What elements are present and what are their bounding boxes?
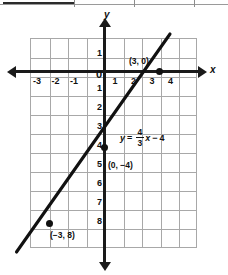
x-axis-label: x (210, 64, 216, 75)
equation-lhs: y (120, 133, 125, 143)
gridline-horizontal (31, 96, 196, 97)
coordinate-plane: x y -3 -2 -1 1 2 3 4 0 1 1 2 3 4 5 6 7 8… (0, 0, 228, 275)
origin-label: 0 (90, 68, 102, 80)
gridline-horizontal (31, 210, 196, 211)
gridline-horizontal (31, 153, 196, 154)
x-tick-label: 1 (107, 76, 123, 86)
data-point-label-3-0: (3, 0) (129, 56, 149, 66)
x-tick-label: -1 (66, 76, 82, 86)
equation-minus: − (152, 133, 157, 143)
y-tick-label: 8 (90, 216, 102, 226)
gridline-horizontal (31, 134, 196, 135)
equation-equals: = (127, 133, 132, 143)
x-tick-label: -3 (29, 76, 45, 86)
y-tick-label: 7 (90, 197, 102, 207)
y-axis-label: y (104, 9, 110, 20)
x-tick-label: -2 (48, 76, 64, 86)
x-axis-arrow-right-icon (198, 66, 207, 78)
gridline-horizontal (31, 115, 196, 116)
data-point-0-neg4 (101, 144, 108, 151)
y-tick-label: 1 (90, 83, 102, 93)
gridline-horizontal (31, 172, 196, 173)
figure-canvas: x y -3 -2 -1 1 2 3 4 0 1 1 2 3 4 5 6 7 8… (0, 0, 228, 275)
y-tick-label: 6 (90, 178, 102, 188)
equation-fraction: 4 3 (136, 128, 144, 147)
x-tick-label: 4 (163, 76, 179, 86)
y-axis-arrow-down-icon (99, 262, 111, 271)
gridline-horizontal (31, 58, 196, 59)
equation-variable: x (145, 133, 150, 143)
data-point-label-0-neg4: (0, −4) (108, 160, 133, 170)
data-point-3-0 (156, 68, 163, 75)
gridline-horizontal (31, 191, 196, 192)
x-axis-arrow-left-icon (7, 66, 16, 78)
y-tick-label: 2 (90, 102, 102, 112)
x-tick-label: 3 (144, 76, 160, 86)
equation-annotation: y = 4 3 x − 4 (120, 128, 165, 147)
data-point-neg3-neg8 (46, 220, 53, 227)
x-axis (14, 70, 200, 73)
y-tick-label: 3 (90, 121, 102, 131)
fraction-denominator: 3 (137, 138, 142, 147)
x-tick-label: 2 (126, 76, 142, 86)
equation-constant: 4 (160, 133, 165, 143)
fraction-numerator: 4 (137, 128, 142, 137)
y-tick-label: 1 (90, 48, 102, 58)
y-tick-label: 5 (90, 159, 102, 169)
data-point-label-neg3-neg8: (−3, 8) (50, 230, 75, 240)
